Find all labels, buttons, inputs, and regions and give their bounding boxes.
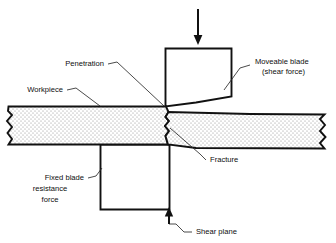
label-workpiece: Workpiece <box>27 85 63 94</box>
workpiece-left-segment <box>7 107 169 145</box>
label-moveable-blade-line2: (shear force) <box>262 67 306 76</box>
fixed-blade <box>101 145 170 210</box>
label-penetration: Penetration <box>65 59 104 68</box>
moveable-blade <box>166 49 232 107</box>
label-moveable-blade-line1: Moveable blade <box>255 57 309 66</box>
workpiece-right-segment <box>165 112 326 149</box>
shearing-diagram: Penetration Workpiece Moveable blade (sh… <box>0 0 336 243</box>
label-fixed-blade-line3: force <box>42 195 59 204</box>
label-fracture: Fracture <box>210 155 238 164</box>
label-shear-plane: Shear plane <box>196 227 237 236</box>
shear-force-arrow <box>194 9 203 45</box>
label-fixed-blade-line1: Fixed blade <box>45 173 84 182</box>
diagram-canvas: Penetration Workpiece Moveable blade (sh… <box>0 0 336 243</box>
label-fixed-blade-line2: resistance <box>33 184 68 193</box>
